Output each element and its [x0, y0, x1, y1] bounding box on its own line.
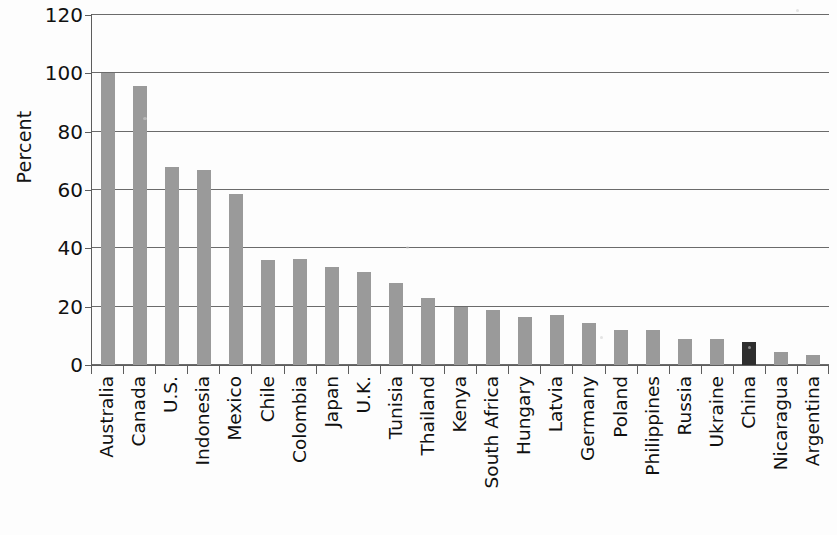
bar-canada	[133, 86, 147, 365]
x-tick-mark	[316, 366, 317, 374]
bar-slot	[92, 15, 124, 365]
bar-slot	[797, 15, 829, 365]
x-tick-cell	[572, 366, 604, 374]
bar-series	[92, 15, 829, 365]
x-label-cell: Poland	[605, 376, 637, 534]
bar-thailand	[421, 298, 435, 365]
bar-tunisia	[389, 283, 403, 365]
x-tick-mark	[91, 366, 92, 374]
x-axis-label-china: China	[740, 376, 759, 429]
x-label-cell: Nicaragua	[765, 376, 797, 534]
x-tick-cell	[123, 366, 155, 374]
x-tick-cell	[508, 366, 540, 374]
x-axis-label-mexico: Mexico	[226, 376, 245, 441]
bar-slot	[348, 15, 380, 365]
bar-slot	[605, 15, 637, 365]
plot-area: 020406080100120	[91, 14, 829, 366]
x-label-cell: Colombia	[284, 376, 316, 534]
x-label-cell: Philippines	[637, 376, 669, 534]
bar-colombia	[293, 259, 307, 365]
x-label-cell: Indonesia	[187, 376, 219, 534]
bar-slot	[701, 15, 733, 365]
x-axis-label-nicaragua: Nicaragua	[772, 376, 791, 470]
x-axis-label-kenya: Kenya	[451, 376, 470, 433]
bar-poland	[614, 330, 628, 365]
x-tick-cell	[637, 366, 669, 374]
y-tick-mark	[85, 73, 92, 74]
x-tick-cell	[219, 366, 251, 374]
x-axis-ticks	[91, 366, 829, 374]
x-label-cell: Latvia	[540, 376, 572, 534]
y-tick-label: 0	[70, 355, 83, 375]
bar-germany	[582, 323, 596, 365]
bar-slot	[220, 15, 252, 365]
scan-artifact	[406, 246, 409, 249]
bar-slot	[509, 15, 541, 365]
bar-u-s	[165, 167, 179, 365]
x-label-cell: Australia	[91, 376, 123, 534]
bar-japan	[325, 267, 339, 365]
x-tick-cell	[733, 366, 765, 374]
x-axis-label-latvia: Latvia	[547, 376, 566, 432]
bar-indonesia	[197, 170, 211, 365]
x-label-cell: China	[733, 376, 765, 534]
x-tick-mark	[765, 366, 766, 374]
x-tick-cell	[701, 366, 733, 374]
bar-u-k	[357, 272, 371, 365]
bar-latvia	[550, 315, 564, 365]
x-tick-cell	[605, 366, 637, 374]
x-axis-label-poland: Poland	[611, 376, 630, 438]
x-tick-mark	[444, 366, 445, 374]
bar-slot	[669, 15, 701, 365]
bar-slot	[637, 15, 669, 365]
bar-slot	[765, 15, 797, 365]
x-tick-mark	[540, 366, 541, 374]
bar-slot	[541, 15, 573, 365]
x-axis-label-u-s: U.S.	[162, 376, 181, 413]
y-axis-title: Percent	[13, 77, 35, 217]
x-tick-mark	[572, 366, 573, 374]
y-tick-mark	[85, 248, 92, 249]
bar-slot	[477, 15, 509, 365]
y-tick-mark	[85, 307, 92, 308]
x-label-cell: Chile	[251, 376, 283, 534]
bar-slot	[252, 15, 284, 365]
x-tick-mark	[797, 366, 798, 374]
bar-mexico	[229, 194, 243, 365]
x-label-cell: Russia	[669, 376, 701, 534]
x-tick-mark	[669, 366, 670, 374]
y-tick-label: 20	[58, 297, 83, 317]
x-label-cell: Ukraine	[701, 376, 733, 534]
y-tick-label: 40	[58, 238, 83, 258]
x-label-cell: Mexico	[219, 376, 251, 534]
x-tick-mark	[637, 366, 638, 374]
scan-artifact	[796, 9, 799, 12]
x-tick-cell	[316, 366, 348, 374]
y-tick-label: 60	[58, 180, 83, 200]
x-axis-label-u-k: U.K.	[355, 376, 374, 413]
bar-philippines	[646, 330, 660, 365]
x-tick-mark	[123, 366, 124, 374]
bar-slot	[188, 15, 220, 365]
x-tick-mark	[380, 366, 381, 374]
x-label-cell: Argentina	[797, 376, 829, 534]
x-tick-cell	[669, 366, 701, 374]
x-tick-cell	[187, 366, 219, 374]
x-axis-label-canada: Canada	[130, 376, 149, 446]
x-axis-label-tunisia: Tunisia	[387, 376, 406, 439]
y-tick-label: 80	[58, 122, 83, 142]
x-axis-label-thailand: Thailand	[419, 376, 438, 455]
x-axis-label-germany: Germany	[579, 376, 598, 461]
x-tick-cell	[380, 366, 412, 374]
x-tick-cell	[765, 366, 797, 374]
x-axis-label-colombia: Colombia	[290, 376, 309, 463]
x-tick-mark	[733, 366, 734, 374]
bar-argentina	[806, 355, 820, 365]
scan-artifact	[748, 346, 751, 349]
y-tick-mark	[85, 15, 92, 16]
bar-slot	[412, 15, 444, 365]
y-tick-mark	[85, 132, 92, 133]
x-label-cell: Germany	[572, 376, 604, 534]
x-tick-cell	[540, 366, 572, 374]
x-label-cell: Thailand	[412, 376, 444, 534]
